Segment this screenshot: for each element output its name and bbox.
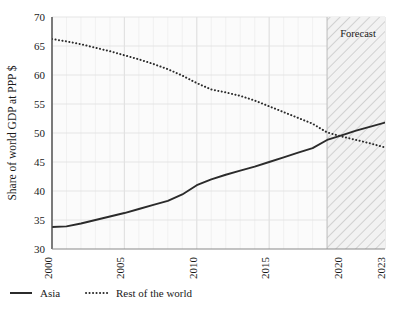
x-tick-2020: 2020 — [332, 257, 344, 280]
y-tick-45: 45 — [34, 156, 46, 168]
forecast-label: Forecast — [340, 28, 376, 39]
x-axis-tick-labels: 200020052010201520202023 — [42, 257, 387, 280]
y-tick-70: 70 — [34, 11, 46, 23]
y-tick-65: 65 — [34, 40, 46, 52]
legend: Asia Rest of the world — [10, 287, 193, 299]
y-axis-tick-labels: 303540455055606570 — [34, 11, 46, 255]
chart-canvas: Forecast 303540455055606570 200020052010… — [0, 0, 395, 310]
y-tick-30: 30 — [34, 243, 46, 255]
x-tick-2015: 2015 — [259, 257, 271, 280]
y-axis-title: Share of world GDP at PPP $ — [6, 65, 18, 200]
x-tick-2010: 2010 — [187, 257, 199, 280]
x-tick-2005: 2005 — [114, 257, 126, 280]
line-chart: Forecast 303540455055606570 200020052010… — [0, 0, 395, 310]
x-tick-2000: 2000 — [42, 257, 54, 280]
forecast-hatch — [327, 17, 385, 249]
legend-label-rest-of-the-world: Rest of the world — [116, 287, 193, 299]
legend-label-asia: Asia — [40, 287, 60, 299]
y-tick-50: 50 — [34, 127, 46, 139]
y-tick-55: 55 — [34, 98, 46, 110]
y-tick-40: 40 — [34, 185, 46, 197]
x-tick-2023: 2023 — [375, 257, 387, 280]
y-tick-35: 35 — [34, 214, 46, 226]
forecast-region — [327, 17, 385, 249]
y-tick-60: 60 — [34, 69, 46, 81]
chart-container: Forecast 303540455055606570 200020052010… — [0, 0, 395, 310]
